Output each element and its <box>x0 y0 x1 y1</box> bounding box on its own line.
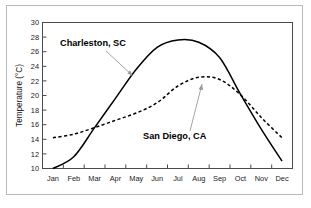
chart-figure: 30 28 26 24 22 20 18 16 14 12 10 Jan Feb… <box>0 0 311 208</box>
x-tick-label: Jan <box>47 174 59 183</box>
leader-line-san-diego <box>190 84 202 131</box>
leader-arrowhead-san-diego <box>199 84 204 90</box>
y-tick-label: 26 <box>31 47 39 56</box>
x-tick-labels: Jan Feb Mar Apr May Jun Jul Aug Sep Oct … <box>47 174 289 183</box>
temperature-line-chart: 30 28 26 24 22 20 18 16 14 12 10 Jan Feb… <box>0 0 311 208</box>
y-axis-title: Temperature (°C) <box>15 64 24 127</box>
x-tick-label: Jul <box>173 174 183 183</box>
annotation-charleston: Charleston, SC <box>60 38 133 76</box>
y-tick-label: 14 <box>31 135 39 144</box>
x-tick-label: Mar <box>88 174 101 183</box>
x-tick-label: Dec <box>276 174 289 183</box>
x-tick-label: Feb <box>67 174 80 183</box>
x-tick-label: Jun <box>151 174 163 183</box>
y-tick-label: 28 <box>31 33 39 42</box>
y-tick-label: 24 <box>31 62 39 71</box>
y-axis-ticks <box>43 23 47 169</box>
y-tick-label: 20 <box>31 91 39 100</box>
series-line-charleston <box>53 40 282 169</box>
x-tick-label: Apr <box>110 174 122 183</box>
y-tick-label: 30 <box>31 18 39 27</box>
y-tick-label: 22 <box>31 77 39 86</box>
y-tick-label: 16 <box>31 120 39 129</box>
x-tick-label: May <box>129 174 143 183</box>
x-tick-label: Nov <box>255 174 268 183</box>
y-tick-label: 18 <box>31 106 39 115</box>
y-tick-label: 12 <box>31 150 39 159</box>
y-tick-labels: 30 28 26 24 22 20 18 16 14 12 10 <box>31 18 39 173</box>
x-axis-ticks <box>43 165 293 169</box>
series-label-charleston: Charleston, SC <box>60 38 126 48</box>
x-tick-label: Sep <box>213 174 226 183</box>
series-label-san-diego: San Diego, CA <box>143 131 207 141</box>
y-tick-label: 10 <box>31 164 39 173</box>
x-tick-label: Oct <box>235 174 247 183</box>
x-tick-label: Aug <box>192 174 205 183</box>
annotation-san-diego: San Diego, CA <box>143 84 207 141</box>
